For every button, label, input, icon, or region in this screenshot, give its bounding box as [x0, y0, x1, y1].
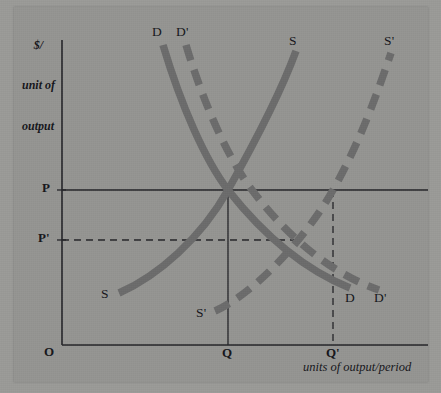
supply-bottom-label: S	[101, 286, 109, 301]
supply-curve-S	[119, 51, 296, 293]
y-axis-caption-line2: unit of	[22, 79, 55, 92]
supply-top-label: S	[289, 33, 297, 48]
quantity-label-Q-prime: Q'	[326, 346, 340, 361]
price-label-P-prime: P'	[38, 231, 50, 246]
demand-shift-top-label: D'	[176, 24, 189, 39]
figure-root: $/ unit of output units of output/period…	[0, 0, 441, 393]
origin-label: O	[44, 345, 54, 360]
demand-shift-bottom-label: D'	[374, 290, 387, 305]
supply-shift-bottom-label: S'	[196, 305, 206, 320]
demand-curve-D	[163, 45, 350, 288]
supply-shift-top-label: S'	[384, 33, 394, 48]
demand-top-label: D	[152, 24, 162, 39]
y-axis-caption-line1: $/	[22, 39, 55, 52]
y-axis-caption: $/ unit of output	[22, 12, 55, 160]
supply-demand-diagram	[0, 0, 441, 393]
quantity-label-Q: Q	[222, 346, 232, 361]
demand-bottom-label: D	[345, 290, 355, 305]
x-axis-caption: units of output/period	[303, 360, 411, 374]
price-label-P: P	[42, 181, 50, 196]
supply-curve-S-prime	[215, 53, 391, 311]
y-axis-caption-line3: output	[22, 120, 55, 133]
